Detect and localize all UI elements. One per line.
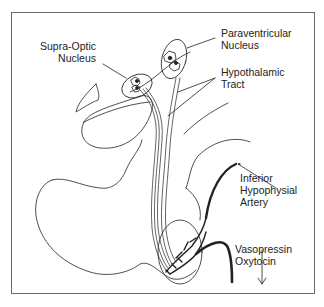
leader-supra-optic (103, 64, 126, 78)
hypothalamic-tract (140, 78, 180, 270)
label-hormones: Vasopressin Oxytocin (235, 243, 292, 267)
label-supra-optic-nucleus: Supra-Optic Nucleus (40, 40, 96, 64)
leader-paraventricular (187, 38, 215, 48)
inferior-hypophysial-artery (206, 164, 236, 218)
label-paraventricular-nucleus: Paraventricular Nucleus (221, 27, 292, 51)
posterior-pituitary (158, 220, 202, 284)
leader-tract-1 (178, 78, 215, 92)
paraventricular-nucleus (157, 37, 191, 82)
label-hypothalamic-tract: Hypothalamic Tract (221, 66, 285, 90)
label-inferior-hypophysial-artery: Inferior Hypophysial Artery (240, 172, 297, 208)
optic-chiasm-shape (76, 84, 99, 112)
